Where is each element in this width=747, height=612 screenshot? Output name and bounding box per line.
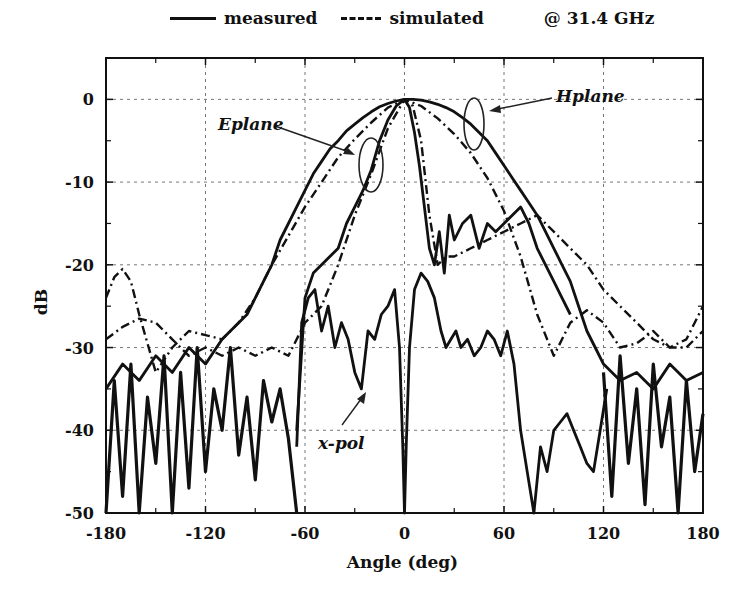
x-tick-label: 180 — [686, 524, 719, 543]
x-tick-label: 60 — [493, 524, 515, 543]
radiation-pattern-chart: -180-120-600601201800-10-20-30-40-50 — [0, 0, 747, 612]
hplane-ellipse — [464, 98, 484, 150]
y-tick-label: -10 — [65, 173, 94, 192]
legend-label-simulated: simulated — [389, 8, 483, 28]
legend-label-measured: measured — [224, 8, 317, 28]
annotation-eplane: Eplane — [218, 114, 284, 134]
frequency-annotation: @ 31.4 GHz — [544, 8, 654, 28]
annotation-ellipses — [275, 98, 552, 425]
dashdot-line-swatch-icon — [341, 17, 381, 20]
y-tick-label: -40 — [65, 421, 94, 440]
eplane-ellipse — [359, 138, 383, 192]
legend-item-simulated: simulated — [341, 8, 483, 28]
annotation-hplane: Hplane — [556, 86, 625, 106]
x-axis-label: Angle (deg) — [0, 552, 747, 572]
annotation-xpol: x-pol — [318, 433, 365, 453]
legend-item-measured: measured — [170, 8, 317, 28]
x-tick-label: 0 — [399, 524, 410, 543]
x-tick-label: -120 — [185, 524, 225, 543]
x-tick-label: -180 — [86, 524, 126, 543]
axis-ticks: -180-120-600601201800-10-20-30-40-50 — [65, 58, 720, 543]
x-tick-label: -60 — [291, 524, 320, 543]
y-tick-label: 0 — [83, 90, 94, 109]
eplane-arrowhead — [343, 147, 355, 155]
hplane-arrow — [493, 98, 552, 110]
x-tick-label: 120 — [587, 524, 620, 543]
solid-line-swatch-icon — [170, 17, 216, 20]
hplane-arrowhead — [489, 105, 501, 113]
y-tick-label: -50 — [65, 504, 94, 523]
y-tick-label: -30 — [65, 339, 94, 358]
series-x-pol-measured — [297, 273, 607, 513]
legend: measured simulated @ 31.4 GHz — [170, 3, 654, 33]
y-axis-label: dB — [31, 289, 51, 315]
y-tick-label: -20 — [65, 256, 94, 275]
